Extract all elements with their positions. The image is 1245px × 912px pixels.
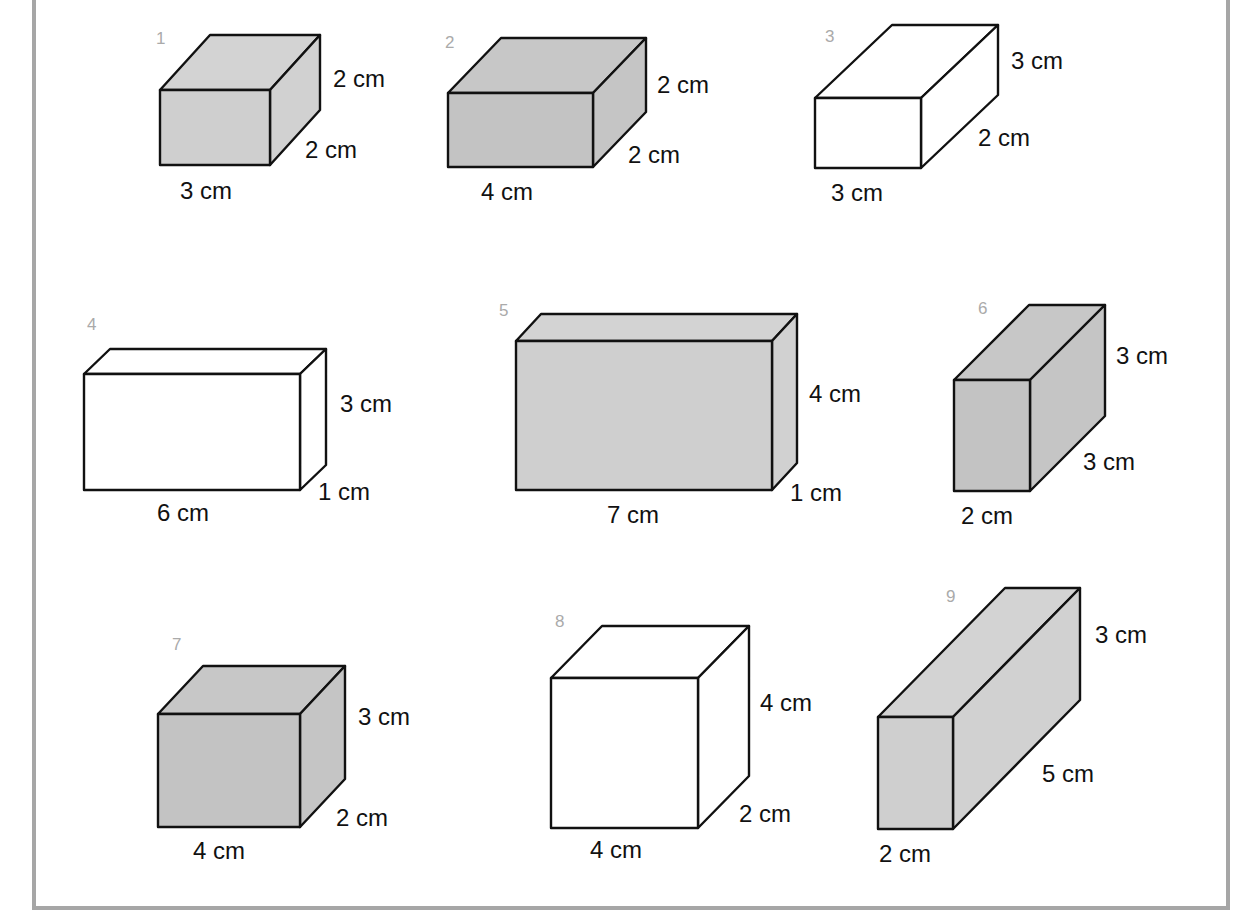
cuboid-1: 13 cm2 cm2 cm xyxy=(156,29,385,204)
cuboid-5: 57 cm4 cm1 cm xyxy=(499,301,861,528)
width-label: 2 cm xyxy=(961,502,1013,529)
width-label: 3 cm xyxy=(180,177,232,204)
cuboid-8: 84 cm4 cm2 cm xyxy=(551,612,812,863)
figure-number: 2 xyxy=(445,33,454,52)
top-face xyxy=(516,314,797,341)
width-label: 3 cm xyxy=(831,179,883,206)
figure-number: 6 xyxy=(978,299,987,318)
figure-number: 8 xyxy=(555,612,564,631)
cuboid-9: 92 cm3 cm5 cm xyxy=(878,587,1147,867)
height-label: 3 cm xyxy=(358,703,410,730)
top-face xyxy=(84,349,326,374)
width-label: 4 cm xyxy=(193,837,245,864)
front-face xyxy=(815,98,921,168)
front-face xyxy=(516,341,772,490)
cuboid-7: 74 cm3 cm2 cm xyxy=(158,635,410,864)
width-label: 6 cm xyxy=(157,499,209,526)
front-face xyxy=(878,717,953,829)
height-label: 3 cm xyxy=(1095,621,1147,648)
figure-number: 5 xyxy=(499,301,508,320)
front-face xyxy=(160,90,270,165)
figure-number: 1 xyxy=(156,29,165,48)
depth-label: 5 cm xyxy=(1042,760,1094,787)
width-label: 4 cm xyxy=(481,178,533,205)
front-face xyxy=(84,374,300,490)
height-label: 2 cm xyxy=(657,71,709,98)
height-label: 2 cm xyxy=(333,65,385,92)
front-face xyxy=(448,93,593,167)
cuboid-6: 62 cm3 cm3 cm xyxy=(954,299,1168,529)
width-label: 4 cm xyxy=(590,836,642,863)
figure-number: 4 xyxy=(87,315,96,334)
figure-number: 3 xyxy=(825,27,834,46)
figure-number: 9 xyxy=(946,587,955,606)
height-label: 3 cm xyxy=(1011,47,1063,74)
boxes-diagram: 13 cm2 cm2 cm24 cm2 cm2 cm33 cm3 cm2 cm4… xyxy=(0,0,1245,912)
cuboid-4: 46 cm3 cm1 cm xyxy=(84,315,392,526)
height-label: 4 cm xyxy=(809,380,861,407)
depth-label: 2 cm xyxy=(305,136,357,163)
figure-number: 7 xyxy=(172,635,181,654)
depth-label: 1 cm xyxy=(790,479,842,506)
side-face xyxy=(772,314,797,490)
cuboid-3: 33 cm3 cm2 cm xyxy=(815,25,1063,206)
depth-label: 3 cm xyxy=(1083,448,1135,475)
front-face xyxy=(158,714,300,827)
height-label: 3 cm xyxy=(340,390,392,417)
front-face xyxy=(954,380,1030,491)
depth-label: 2 cm xyxy=(336,804,388,831)
front-face xyxy=(551,678,698,828)
width-label: 7 cm xyxy=(607,501,659,528)
depth-label: 2 cm xyxy=(739,800,791,827)
width-label: 2 cm xyxy=(879,840,931,867)
depth-label: 2 cm xyxy=(978,124,1030,151)
cuboid-2: 24 cm2 cm2 cm xyxy=(445,33,709,205)
depth-label: 1 cm xyxy=(318,478,370,505)
height-label: 3 cm xyxy=(1116,342,1168,369)
depth-label: 2 cm xyxy=(628,141,680,168)
height-label: 4 cm xyxy=(760,689,812,716)
side-face xyxy=(300,349,326,490)
